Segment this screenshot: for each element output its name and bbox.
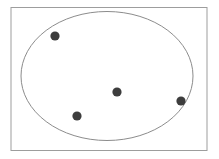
set-ellipse xyxy=(21,12,193,141)
element-dot-center xyxy=(112,87,121,96)
element-dot-right xyxy=(176,96,185,105)
set-diagram-svg xyxy=(0,0,219,159)
element-dot-lower-left xyxy=(72,111,81,120)
universe-rectangle xyxy=(11,8,207,151)
figure-canvas xyxy=(0,0,219,159)
element-dot-upper-left xyxy=(50,31,59,40)
